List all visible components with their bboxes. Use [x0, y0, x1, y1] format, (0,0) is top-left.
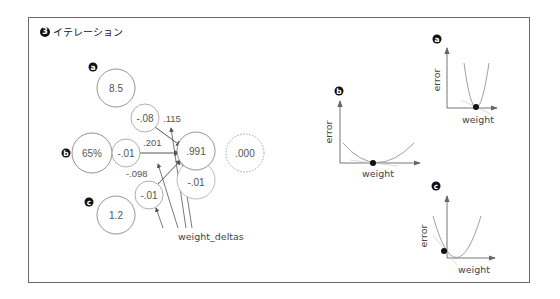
prediction-value: .991 [186, 146, 206, 157]
error-curve-a [464, 63, 489, 108]
x-label-c: weight [458, 264, 490, 275]
input-value-c: 1.2 [109, 210, 123, 221]
error-curve-b [343, 143, 414, 163]
error-graph-b: b error weight [323, 87, 420, 180]
badge-b-label: b [63, 149, 69, 158]
weight-delta-a: -.08 [136, 113, 154, 124]
graph-badge-c: c [434, 182, 438, 191]
weight-delta-b: -.01 [117, 148, 135, 159]
graph-badge-b: b [336, 87, 342, 96]
y-label-c: error [418, 224, 429, 247]
x-label-b: weight [362, 168, 394, 179]
current-weight-dot-c [441, 248, 447, 254]
badge-a-label: a [90, 63, 95, 72]
weight-label-a: .115 [163, 113, 181, 124]
goal-value: .000 [235, 148, 255, 159]
diagram-canvas: a 8.5 -.08 .115 b 65% -.01 .201 c 1.2 -.… [0, 0, 560, 299]
current-weight-dot-b [370, 160, 376, 166]
x-label-a: weight [462, 114, 494, 125]
weight-label-b: .201 [143, 137, 162, 148]
y-label-a: error [431, 68, 442, 91]
error-graph-a: a error weight [431, 35, 497, 126]
badge-c-label: c [87, 198, 91, 207]
weight-delta-c: -.01 [140, 190, 158, 201]
delta-pointer-c [156, 208, 163, 228]
current-weight-dot-a [473, 104, 479, 110]
input-value-a: 8.5 [109, 83, 123, 94]
graph-badge-a: a [434, 35, 439, 44]
y-label-b: error [323, 120, 334, 143]
error-curve-c [433, 216, 481, 258]
error-graph-c: c error weight [418, 182, 495, 276]
neural-network: a 8.5 -.08 .115 b 65% -.01 .201 c 1.2 -.… [62, 63, 265, 243]
input-value-b: 65% [82, 148, 102, 159]
weight-deltas-label: weight_deltas [178, 231, 244, 242]
weight-label-c: -.098 [126, 168, 148, 179]
delta-value: -.01 [187, 177, 205, 188]
